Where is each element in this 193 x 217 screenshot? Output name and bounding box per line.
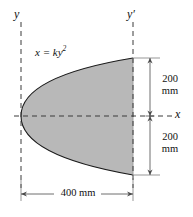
equation-equals: = — [40, 46, 53, 58]
figure-canvas — [0, 0, 193, 217]
parabolic-area-figure: y y′ x x = ky2 200 mm 200 mm 400 mm — [0, 0, 193, 217]
curve-equation-label: x = ky2 — [35, 45, 66, 58]
dimension-width-400mm: 400 mm — [55, 187, 101, 198]
dimension-lower-value: 200 — [152, 131, 188, 143]
dimension-upper-unit: mm — [152, 85, 188, 97]
x-axis-label: x — [175, 108, 180, 121]
dimension-upper-value: 200 — [152, 73, 188, 85]
dimension-lower-unit: mm — [152, 143, 188, 155]
y-prime-axis-label: y′ — [127, 8, 135, 21]
y-axis-label: y — [14, 8, 19, 21]
equation-exponent: 2 — [63, 44, 67, 53]
equation-ky: ky — [53, 46, 63, 58]
dimension-upper-200mm: 200 mm — [152, 73, 188, 97]
dimension-lower-200mm: 200 mm — [152, 131, 188, 155]
